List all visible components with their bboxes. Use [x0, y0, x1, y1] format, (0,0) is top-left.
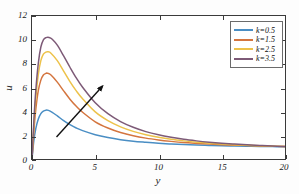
y-tick-mark — [32, 113, 36, 114]
x-tick-label: 10 — [154, 162, 163, 172]
legend-item-label: k=1.5 — [256, 35, 275, 44]
legend-item-label: k=2.5 — [256, 45, 275, 54]
figure-canvas: 0 2 4 6 8 10 12 0 5 10 15 20 y u — [0, 0, 299, 194]
y-tick-label: 2 — [23, 131, 28, 141]
y-tick-mark-right — [281, 113, 285, 114]
legend-item: k=0.5 — [234, 26, 279, 35]
y-tick-label: 4 — [23, 107, 28, 117]
y-tick-label: 12 — [18, 10, 27, 20]
legend-color-swatch — [234, 48, 253, 50]
x-tick-mark — [223, 155, 224, 159]
x-tick-label: 0 — [29, 162, 34, 172]
x-tick-label: 5 — [93, 162, 98, 172]
y-tick-mark — [32, 64, 36, 65]
legend: k=0.5 k=1.5 k=2.5 k=3.5 — [230, 21, 283, 68]
x-axis-label: y — [156, 174, 161, 186]
x-tick-mark — [286, 155, 287, 159]
y-tick-label: 10 — [18, 34, 27, 44]
legend-item: k=2.5 — [234, 45, 279, 54]
x-tick-mark — [160, 155, 161, 159]
y-tick-mark — [32, 137, 36, 138]
x-tick-label: 15 — [218, 162, 227, 172]
series-line-1 — [32, 73, 285, 159]
legend-color-swatch — [234, 58, 253, 60]
x-tick-mark — [32, 155, 33, 159]
y-tick-mark — [32, 89, 36, 90]
y-tick-mark — [32, 40, 36, 41]
y-tick-mark-right — [281, 137, 285, 138]
y-tick-mark-right — [281, 89, 285, 90]
legend-item: k=3.5 — [234, 54, 279, 63]
legend-item: k=1.5 — [234, 35, 279, 44]
x-tick-mark-top — [223, 16, 224, 20]
x-tick-mark-top — [160, 16, 161, 20]
legend-item-label: k=0.5 — [256, 26, 275, 35]
y-tick-mark — [32, 160, 36, 161]
y-tick-label: 6 — [23, 83, 28, 93]
x-tick-mark-top — [96, 16, 97, 20]
y-tick-mark — [32, 16, 36, 17]
x-tick-mark — [96, 155, 97, 159]
legend-color-swatch — [234, 39, 253, 41]
x-tick-label: 20 — [280, 162, 289, 172]
legend-item-label: k=3.5 — [256, 54, 275, 63]
legend-color-swatch — [234, 29, 253, 31]
y-tick-label: 0 — [23, 155, 28, 165]
y-tick-label: 8 — [23, 58, 28, 68]
y-axis-label: u — [2, 85, 14, 91]
